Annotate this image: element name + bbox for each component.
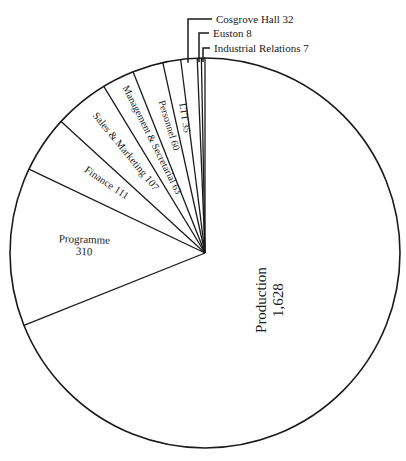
pie-slices <box>10 58 400 448</box>
callout-leader-cosgrove-hall <box>188 19 212 63</box>
callout-euston: Euston 8 <box>213 27 252 39</box>
callout-labels: Cosgrove Hall 32Euston 8Industrial Relat… <box>188 13 309 63</box>
pie-chart: Production1,628Programme310Finance 111Sa… <box>0 0 406 461</box>
callout-industrial-relations: Industrial Relations 7 <box>214 42 309 54</box>
callout-cosgrove-hall: Cosgrove Hall 32 <box>216 13 294 25</box>
